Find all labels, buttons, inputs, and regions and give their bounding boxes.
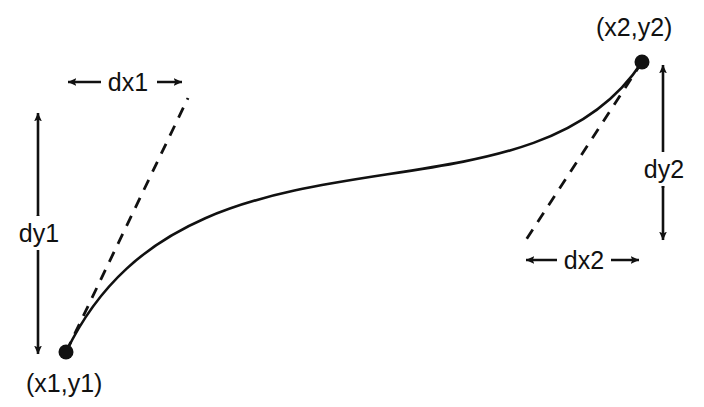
endpoint-dot-2 [635,55,650,70]
tangent-line-2 [524,62,642,243]
bezier-diagram-svg: dx1 dy1 dx2 dy2 (x1,y1) (x2,y2) [0,0,704,407]
dx2-label: dx2 [564,246,604,274]
dx1-label: dx1 [108,68,148,96]
endpoint-dot-1 [59,345,74,360]
dy2-label: dy2 [644,155,684,183]
point1-label: (x1,y1) [26,369,102,397]
diagram-canvas: dx1 dy1 dx2 dy2 (x1,y1) (x2,y2) [0,0,704,407]
dy1-label: dy1 [19,219,59,247]
bezier-curve [66,62,642,352]
tangent-line-1 [66,98,188,352]
point2-label: (x2,y2) [596,13,672,41]
